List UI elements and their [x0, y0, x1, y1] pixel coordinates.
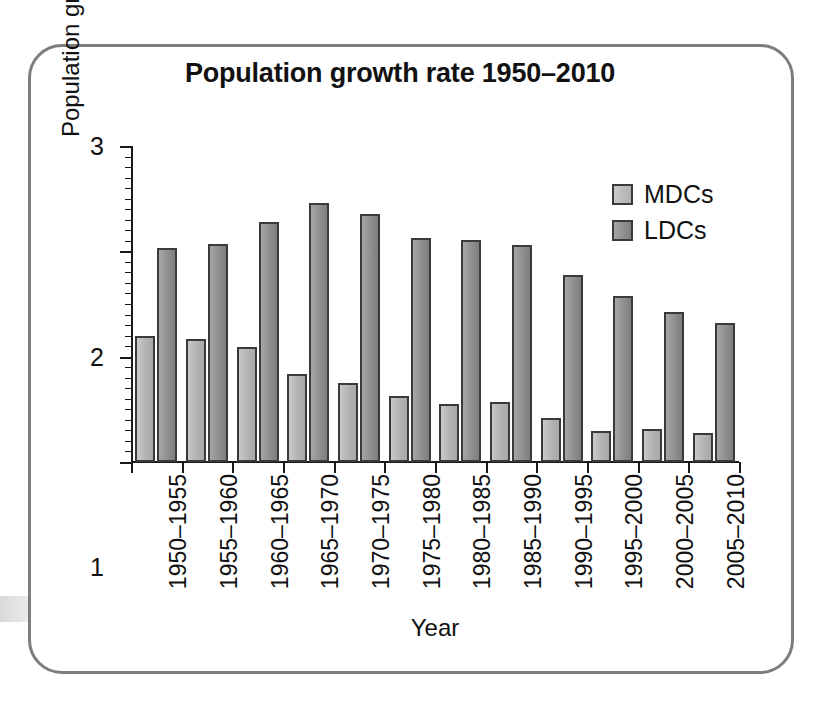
chart-legend: MDCs LDCs	[612, 178, 713, 250]
x-tick-label-2000–2005: 2000–2005	[672, 474, 699, 589]
bar-mdcs-1995–2000	[591, 431, 611, 462]
bar-mdcs-2005–2010	[693, 433, 713, 462]
x-axis-title: Year	[131, 614, 739, 642]
bar-ldcs-1950–1955	[157, 248, 177, 462]
y-tick-1: 1	[120, 357, 131, 359]
y-minor-tick	[125, 441, 131, 442]
x-tick	[536, 462, 538, 473]
x-tick-label-1995–2000: 1995–2000	[621, 474, 648, 589]
bar-mdcs-1950–1955	[135, 336, 155, 462]
y-minor-tick	[125, 188, 131, 189]
x-tick-label-1960–1965: 1960–1965	[267, 474, 294, 589]
x-tick-label-2005–2010: 2005–2010	[723, 474, 750, 589]
y-minor-tick	[125, 167, 131, 168]
y-minor-tick	[125, 325, 131, 326]
y-minor-tick	[125, 346, 131, 347]
legend-label-mdcs: MDCs	[644, 182, 713, 207]
y-tick-label-3: 3	[90, 134, 104, 159]
y-minor-tick	[125, 399, 131, 400]
x-tick	[486, 462, 488, 473]
legend-item-mdcs: MDCs	[612, 178, 713, 210]
bar-mdcs-1960–1965	[237, 347, 257, 462]
x-tick	[131, 462, 133, 473]
x-tick-label-1950–1955: 1950–1955	[165, 474, 192, 589]
bar-mdcs-1980–1985	[439, 404, 459, 462]
x-tick	[688, 462, 690, 473]
y-minor-tick	[125, 293, 131, 294]
x-tick	[435, 462, 437, 473]
y-tick-label-2: 2	[90, 344, 104, 369]
y-tick-label-1: 1	[90, 555, 104, 580]
x-tick	[739, 462, 741, 473]
chart-title: Population growth rate 1950–2010	[100, 58, 700, 89]
x-tick	[232, 462, 234, 473]
bar-ldcs-1985–1990	[512, 245, 532, 462]
y-axis-title: Population growth rate (%)	[57, 0, 85, 150]
bar-mdcs-1975–1980	[389, 396, 409, 462]
y-minor-tick	[125, 430, 131, 431]
y-minor-tick	[125, 283, 131, 284]
y-minor-tick	[125, 388, 131, 389]
x-tick-label-1975–1980: 1975–1980	[419, 474, 446, 589]
y-minor-tick	[125, 199, 131, 200]
x-tick	[283, 462, 285, 473]
x-tick-label-1965–1970: 1965–1970	[317, 474, 344, 589]
y-minor-tick	[125, 220, 131, 221]
y-minor-tick	[125, 304, 131, 305]
y-minor-tick	[125, 241, 131, 242]
bar-ldcs-1970–1975	[360, 214, 380, 462]
legend-label-ldcs: LDCs	[644, 218, 707, 243]
y-minor-tick	[125, 451, 131, 452]
bar-ldcs-1990–1995	[563, 275, 583, 462]
x-tick-label-1970–1975: 1970–1975	[368, 474, 395, 589]
bar-mdcs-1970–1975	[338, 383, 358, 462]
bar-ldcs-1955–1960	[208, 244, 228, 462]
legend-swatch-mdcs-icon	[612, 184, 633, 205]
bar-ldcs-1995–2000	[613, 296, 633, 462]
x-tick-label-1985–1990: 1985–1990	[520, 474, 547, 589]
y-minor-tick	[125, 178, 131, 179]
y-minor-tick	[125, 420, 131, 421]
y-tick-2: 2	[120, 251, 131, 253]
legend-item-ldcs: LDCs	[612, 214, 713, 246]
y-tick-3: 3	[120, 146, 131, 148]
x-tick-label-1990–1995: 1990–1995	[571, 474, 598, 589]
bar-ldcs-1975–1980	[411, 238, 431, 462]
x-tick	[587, 462, 589, 473]
y-minor-tick	[125, 209, 131, 210]
y-minor-tick	[125, 262, 131, 263]
bar-ldcs-2000–2005	[664, 312, 684, 462]
x-tick	[638, 462, 640, 473]
legend-swatch-ldcs-icon	[612, 220, 633, 241]
y-minor-tick	[125, 272, 131, 273]
y-minor-tick	[125, 230, 131, 231]
y-tick-0: 0	[120, 462, 131, 464]
bar-ldcs-2005–2010	[715, 323, 735, 462]
x-tick	[384, 462, 386, 473]
bar-mdcs-2000–2005	[642, 429, 662, 462]
x-tick	[182, 462, 184, 473]
y-minor-tick	[125, 409, 131, 410]
bar-mdcs-1990–1995	[541, 418, 561, 462]
y-minor-tick	[125, 336, 131, 337]
x-tick-label-1980–1985: 1980–1985	[469, 474, 496, 589]
y-minor-tick	[125, 315, 131, 316]
x-tick	[334, 462, 336, 473]
y-minor-tick	[125, 157, 131, 158]
bar-ldcs-1965–1970	[309, 203, 329, 462]
bar-mdcs-1965–1970	[287, 374, 307, 462]
bar-ldcs-1980–1985	[461, 240, 481, 462]
bar-mdcs-1985–1990	[490, 402, 510, 462]
x-tick-label-1955–1960: 1955–1960	[216, 474, 243, 589]
y-axis-line	[131, 146, 133, 463]
y-minor-tick	[125, 367, 131, 368]
y-minor-tick	[125, 378, 131, 379]
bar-ldcs-1960–1965	[259, 222, 279, 462]
bar-mdcs-1955–1960	[186, 339, 206, 462]
